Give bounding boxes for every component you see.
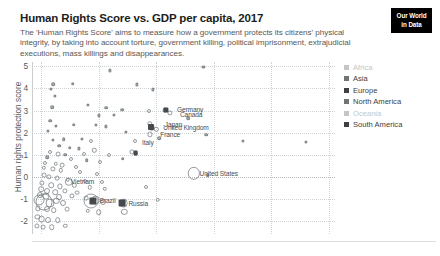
data-point[interactable] [71, 82, 75, 86]
data-point[interactable] [241, 139, 244, 142]
data-point[interactable] [112, 113, 115, 116]
data-point[interactable] [92, 148, 96, 152]
data-point-highlighted[interactable] [119, 200, 126, 207]
data-point[interactable] [104, 106, 108, 110]
data-point[interactable] [52, 138, 55, 141]
data-point[interactable] [55, 124, 58, 127]
data-point[interactable] [54, 176, 59, 181]
data-point[interactable] [43, 161, 47, 165]
data-point[interactable] [49, 224, 55, 230]
data-point[interactable] [50, 167, 55, 172]
data-point[interactable] [38, 216, 45, 223]
data-point[interactable] [72, 183, 76, 187]
data-point[interactable] [49, 182, 55, 188]
data-point-highlighted[interactable] [148, 124, 154, 130]
data-point[interactable] [100, 180, 104, 184]
data-point[interactable] [109, 69, 112, 72]
legend-item-north-america[interactable]: North America [344, 97, 402, 106]
data-point[interactable] [144, 185, 148, 189]
data-point[interactable] [154, 127, 158, 131]
data-point[interactable] [40, 181, 45, 186]
data-point[interactable] [204, 133, 208, 137]
data-point[interactable] [133, 139, 137, 143]
data-point[interactable] [206, 174, 210, 178]
data-point[interactable] [86, 208, 90, 212]
data-point[interactable] [64, 153, 68, 157]
data-point[interactable] [41, 225, 46, 230]
data-point[interactable] [48, 150, 52, 154]
data-point[interactable] [186, 116, 190, 120]
data-point[interactable] [64, 206, 69, 211]
data-point[interactable] [121, 157, 125, 161]
data-point-highlighted[interactable] [90, 197, 97, 204]
data-point[interactable] [59, 168, 63, 172]
data-point[interactable] [48, 119, 52, 123]
data-point[interactable] [41, 166, 45, 170]
data-point[interactable] [49, 87, 52, 90]
data-point[interactable] [34, 223, 39, 228]
data-point[interactable] [53, 162, 57, 166]
data-point[interactable] [63, 224, 67, 228]
data-point[interactable] [77, 147, 80, 150]
data-point[interactable] [62, 137, 66, 141]
data-point[interactable] [202, 66, 205, 69]
data-point[interactable] [86, 103, 89, 106]
legend-item-europe[interactable]: Europe [344, 86, 402, 95]
data-point[interactable] [135, 83, 138, 86]
data-point[interactable] [121, 208, 127, 214]
data-point[interactable] [85, 159, 89, 163]
data-point[interactable] [68, 146, 72, 150]
data-point[interactable] [62, 188, 67, 193]
data-point[interactable] [75, 190, 80, 195]
scatter-plot-area[interactable]: 543210-1-2GermanyCanadaJapanUnited Kingd… [32, 62, 335, 234]
data-point[interactable] [98, 160, 102, 164]
data-point[interactable] [53, 94, 56, 97]
data-point[interactable] [69, 193, 74, 198]
data-point[interactable] [105, 125, 108, 128]
data-point[interactable] [94, 123, 97, 126]
data-point-highlighted[interactable] [164, 107, 169, 112]
data-point[interactable] [157, 137, 161, 141]
data-point[interactable] [55, 218, 61, 224]
data-point[interactable] [55, 151, 60, 156]
data-point[interactable] [103, 186, 107, 190]
data-point[interactable] [148, 132, 153, 137]
data-point-highlighted[interactable] [133, 150, 138, 155]
data-point[interactable] [74, 165, 78, 169]
data-point[interactable] [51, 83, 55, 87]
data-point[interactable] [156, 197, 160, 201]
data-point[interactable] [60, 200, 66, 206]
data-point[interactable] [80, 137, 83, 140]
data-point[interactable] [60, 163, 65, 168]
data-point[interactable] [51, 207, 57, 213]
data-point[interactable] [305, 140, 308, 143]
legend-item-south-america[interactable]: South America [344, 120, 402, 129]
legend-item-africa[interactable]: Africa [344, 63, 402, 72]
data-point[interactable] [50, 106, 54, 110]
data-point[interactable] [96, 209, 102, 215]
data-point[interactable] [78, 170, 82, 174]
data-point[interactable] [107, 153, 111, 157]
legend-item-asia[interactable]: Asia [344, 74, 402, 83]
data-point[interactable] [100, 199, 106, 205]
legend-item-oceania[interactable]: Oceania [344, 109, 402, 118]
data-point[interactable] [46, 175, 51, 180]
data-point[interactable] [69, 157, 73, 161]
data-point[interactable] [57, 144, 61, 148]
data-point[interactable] [152, 88, 155, 91]
data-point[interactable] [35, 206, 40, 211]
data-point[interactable] [82, 152, 86, 156]
our-world-in-data-logo[interactable]: Our World in Data [391, 8, 432, 33]
data-point[interactable] [120, 108, 124, 112]
data-point[interactable] [45, 217, 51, 223]
data-point[interactable] [45, 155, 49, 159]
data-point[interactable] [97, 114, 100, 117]
data-point[interactable] [44, 206, 50, 212]
data-point[interactable] [89, 139, 93, 143]
data-point[interactable] [83, 179, 87, 183]
data-point[interactable] [147, 109, 151, 113]
data-point[interactable] [72, 123, 76, 127]
data-point[interactable] [53, 198, 59, 204]
data-point[interactable] [95, 172, 99, 176]
data-point[interactable] [87, 185, 91, 189]
